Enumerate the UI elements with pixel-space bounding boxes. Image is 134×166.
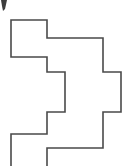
figure-background <box>0 0 134 166</box>
figure-canvas: orthogonal-polygon-outline <box>0 0 134 166</box>
polygon-figure: orthogonal-polygon-outline <box>0 0 134 166</box>
